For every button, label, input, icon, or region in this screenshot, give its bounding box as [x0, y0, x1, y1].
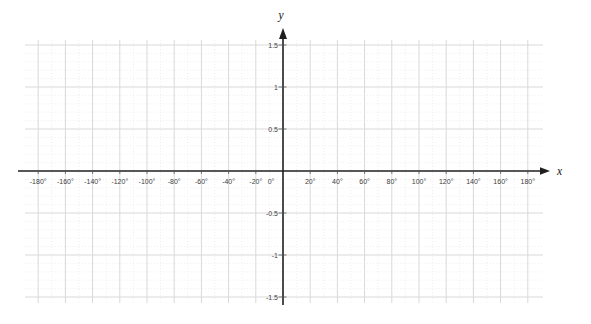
- plot-svg: -180°-160°-140°-120°-100°-80°-60°-40°-20…: [0, 0, 591, 324]
- x-tick-label: -20°: [249, 178, 262, 185]
- x-tick-label: 60°: [359, 178, 370, 185]
- x-axis-arrow-icon: [540, 167, 550, 175]
- x-tick-label: 0°: [268, 178, 275, 185]
- x-tick-label: -160°: [57, 178, 74, 185]
- x-tick-label: -80°: [168, 178, 181, 185]
- y-tick-label: 0.5: [268, 126, 278, 133]
- x-tick-label: -180°: [30, 178, 47, 185]
- y-tick-label: -0.5: [266, 210, 278, 217]
- x-tick-label: 20°: [305, 178, 316, 185]
- y-tick-label: 1.5: [268, 42, 278, 49]
- x-tick-label: 160°: [493, 178, 508, 185]
- x-tick-label: 120°: [439, 178, 454, 185]
- y-tick-label: -1.5: [266, 294, 278, 301]
- x-tick-label: 140°: [466, 178, 481, 185]
- x-tick-label: -60°: [195, 178, 208, 185]
- x-tick-label: 180°: [521, 178, 536, 185]
- y-tick-label: -1: [272, 252, 278, 259]
- y-axis-arrow-icon: [279, 28, 287, 39]
- x-tick-label: -120°: [111, 178, 128, 185]
- x-tick-label: 80°: [387, 178, 398, 185]
- x-tick-label: -140°: [84, 178, 101, 185]
- x-tick-label: 100°: [412, 178, 427, 185]
- x-tick-label: -40°: [222, 178, 235, 185]
- x-tick-label: -100°: [139, 178, 156, 185]
- x-axis-title: x: [556, 165, 563, 177]
- y-axis-title: y: [277, 9, 284, 22]
- x-tick-label: 40°: [332, 178, 343, 185]
- coordinate-plane: -180°-160°-140°-120°-100°-80°-60°-40°-20…: [0, 0, 591, 324]
- y-tick-label: 1: [274, 84, 278, 91]
